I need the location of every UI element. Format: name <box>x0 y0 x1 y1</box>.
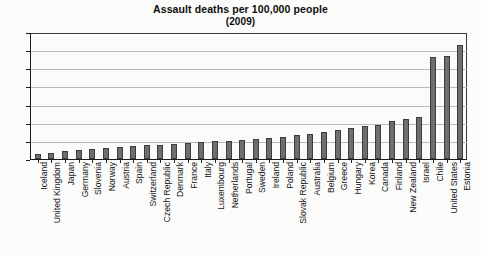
bar <box>362 126 368 159</box>
x-axis-tick-label: Austria <box>122 135 131 162</box>
x-axis-label-slot: Canada <box>371 162 385 254</box>
x-axis-label-slot: Estonia <box>453 162 467 254</box>
x-axis-label-slot: Australia <box>303 162 317 254</box>
x-axis-label-slot: Spain <box>126 162 140 254</box>
x-axis-label-slot: Netherlands <box>221 162 235 254</box>
y-axis-tick-mark <box>26 160 30 161</box>
x-axis-label-slot: Denmark <box>167 162 181 254</box>
x-axis-tick-label: Luxembourg <box>217 114 226 162</box>
x-axis-tick-label: Denmark <box>176 127 185 162</box>
chart-title-line-2: (2009) <box>0 16 481 29</box>
y-axis-tick-mark <box>26 33 30 34</box>
x-axis-tick-label: Slovak Republic <box>299 100 308 162</box>
x-axis-tick-label: Ireland <box>272 136 281 162</box>
x-axis-label-slot: Finland <box>385 162 399 254</box>
y-axis-tick-mark <box>26 69 30 70</box>
x-axis-tick-label: Iceland <box>40 134 49 162</box>
x-axis-tick-label: Israel <box>422 141 431 162</box>
x-axis-tick-label: Norway <box>108 133 117 162</box>
x-axis-label-slot: Portugal <box>235 162 249 254</box>
x-axis-tick-label: Hungary <box>354 130 363 162</box>
x-axis-tick-label: Czech Republic <box>163 102 172 162</box>
x-axis-label-slot: Poland <box>276 162 290 254</box>
x-axis-tick-label: United Kingdom <box>53 101 62 162</box>
x-axis-label-slot: Norway <box>98 162 112 254</box>
x-axis-label-slot: Hungary <box>344 162 358 254</box>
x-axis-tick-label: Korea <box>368 139 377 162</box>
chart-title-line-1: Assault deaths per 100,000 people <box>0 3 481 16</box>
x-axis-label-slot: Italy <box>194 162 208 254</box>
x-axis-label-slot: Greece <box>330 162 344 254</box>
x-axis-tick-label: Poland <box>286 135 295 162</box>
x-axis-tick-label: United States <box>450 110 459 162</box>
x-axis-label-slot: Slovenia <box>85 162 99 254</box>
x-axis-tick-label: Canada <box>381 132 390 162</box>
x-axis-tick-label: Germany <box>81 127 90 162</box>
x-axis-tick-label: Portugal <box>245 130 254 162</box>
y-axis-tick-mark <box>26 124 30 125</box>
x-axis-label-slot: Iceland <box>30 162 44 254</box>
x-axis-label-slot: Germany <box>71 162 85 254</box>
x-axis-tick-label: Estonia <box>463 133 472 162</box>
x-axis-tick-label: Chile <box>436 142 445 162</box>
y-axis-tick-mark <box>26 106 30 107</box>
x-axis-tick-label: Slovenia <box>94 129 103 162</box>
x-axis-label-slot: Korea <box>358 162 372 254</box>
x-axis-label-slot: New Zealand <box>399 162 413 254</box>
x-axis-tick-label: Australia <box>313 129 322 162</box>
x-axis-tick-label: Greece <box>340 134 349 162</box>
x-axis-label-slot: Belgium <box>317 162 331 254</box>
x-axis-tick-label: Finland <box>395 134 404 162</box>
x-axis-label-slot: United Kingdom <box>44 162 58 254</box>
x-axis-tick-label: New Zealand <box>409 111 418 162</box>
x-axis-label-slot: Czech Republic <box>153 162 167 254</box>
x-axis-tick-label: Switzerland <box>149 118 158 162</box>
x-axis-tick-label: Sweden <box>258 131 267 162</box>
x-axis-tick-label: Spain <box>135 140 144 162</box>
x-axis-label-slot: Japan <box>57 162 71 254</box>
x-axis-label-slot: France <box>180 162 194 254</box>
x-axis-tick-label: Netherlands <box>231 116 240 162</box>
x-axis-label-slot: Ireland <box>262 162 276 254</box>
x-axis-label-slot: Chile <box>426 162 440 254</box>
x-axis-tick-label: France <box>190 135 199 162</box>
y-axis-tick-mark <box>26 142 30 143</box>
x-axis-tick-label: Belgium <box>327 131 336 162</box>
x-axis-tick-label: Japan <box>67 139 76 162</box>
x-axis-label-slot: Sweden <box>249 162 263 254</box>
x-axis-label-slot: Israel <box>412 162 426 254</box>
x-axis-labels: IcelandUnited KingdomJapanGermanySloveni… <box>30 162 467 254</box>
x-axis-label-slot: Austria <box>112 162 126 254</box>
chart-title: Assault deaths per 100,000 people (2009) <box>0 3 481 28</box>
x-axis-label-slot: Luxembourg <box>208 162 222 254</box>
x-axis-label-slot: United States <box>440 162 454 254</box>
x-axis-label-slot: Slovak Republic <box>289 162 303 254</box>
x-axis-label-slot: Switzerland <box>139 162 153 254</box>
y-axis-tick-mark <box>26 51 30 52</box>
x-axis-tick-label: Italy <box>204 146 213 162</box>
assault-deaths-bar-chart: Assault deaths per 100,000 people (2009)… <box>0 0 481 255</box>
y-axis-tick-mark <box>26 87 30 88</box>
